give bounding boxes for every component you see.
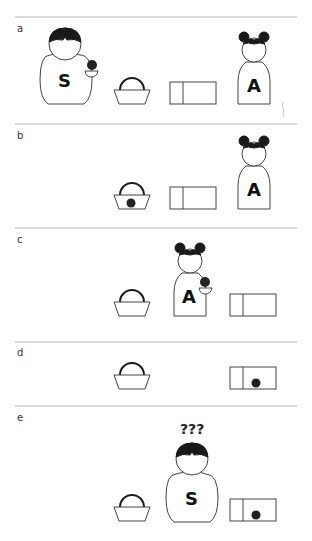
basket bbox=[114, 495, 150, 521]
character-letter: S bbox=[58, 70, 71, 91]
box bbox=[230, 499, 276, 521]
basket bbox=[114, 183, 150, 209]
box bbox=[230, 367, 276, 389]
sally-figure: S bbox=[40, 28, 98, 104]
basket bbox=[114, 290, 150, 316]
character-letter: A bbox=[247, 75, 261, 96]
panel-c: c A bbox=[17, 234, 276, 316]
panel-d: d bbox=[17, 347, 276, 389]
panel-label: d bbox=[17, 347, 23, 358]
marble bbox=[127, 199, 136, 208]
sally-figure: S bbox=[166, 443, 218, 522]
marble bbox=[252, 379, 261, 388]
panel-label: b bbox=[17, 130, 23, 141]
panel-b: b A bbox=[17, 130, 270, 209]
box bbox=[170, 82, 216, 104]
marble bbox=[200, 277, 210, 287]
cup bbox=[199, 288, 212, 294]
anne-figure: A bbox=[238, 136, 270, 209]
anne-figure: A bbox=[238, 32, 270, 104]
character-letter: A bbox=[182, 286, 196, 307]
false-belief-diagram: a S A b bbox=[0, 0, 312, 541]
panel-a: a S A bbox=[17, 23, 284, 117]
marble bbox=[252, 511, 261, 520]
basket bbox=[114, 363, 150, 389]
box bbox=[230, 294, 276, 316]
panel-label: c bbox=[17, 234, 23, 245]
character-letter: A bbox=[247, 179, 261, 200]
cup bbox=[85, 71, 98, 77]
anne-figure: A bbox=[174, 243, 212, 316]
box bbox=[170, 187, 216, 209]
character-letter: S bbox=[185, 488, 198, 509]
marble bbox=[87, 60, 97, 70]
panel-e: e ??? S bbox=[17, 412, 276, 522]
scan-artifact bbox=[282, 102, 284, 117]
panel-label: a bbox=[17, 23, 23, 34]
question-marks: ??? bbox=[180, 421, 204, 437]
basket bbox=[114, 78, 150, 104]
panel-label: e bbox=[17, 412, 23, 423]
